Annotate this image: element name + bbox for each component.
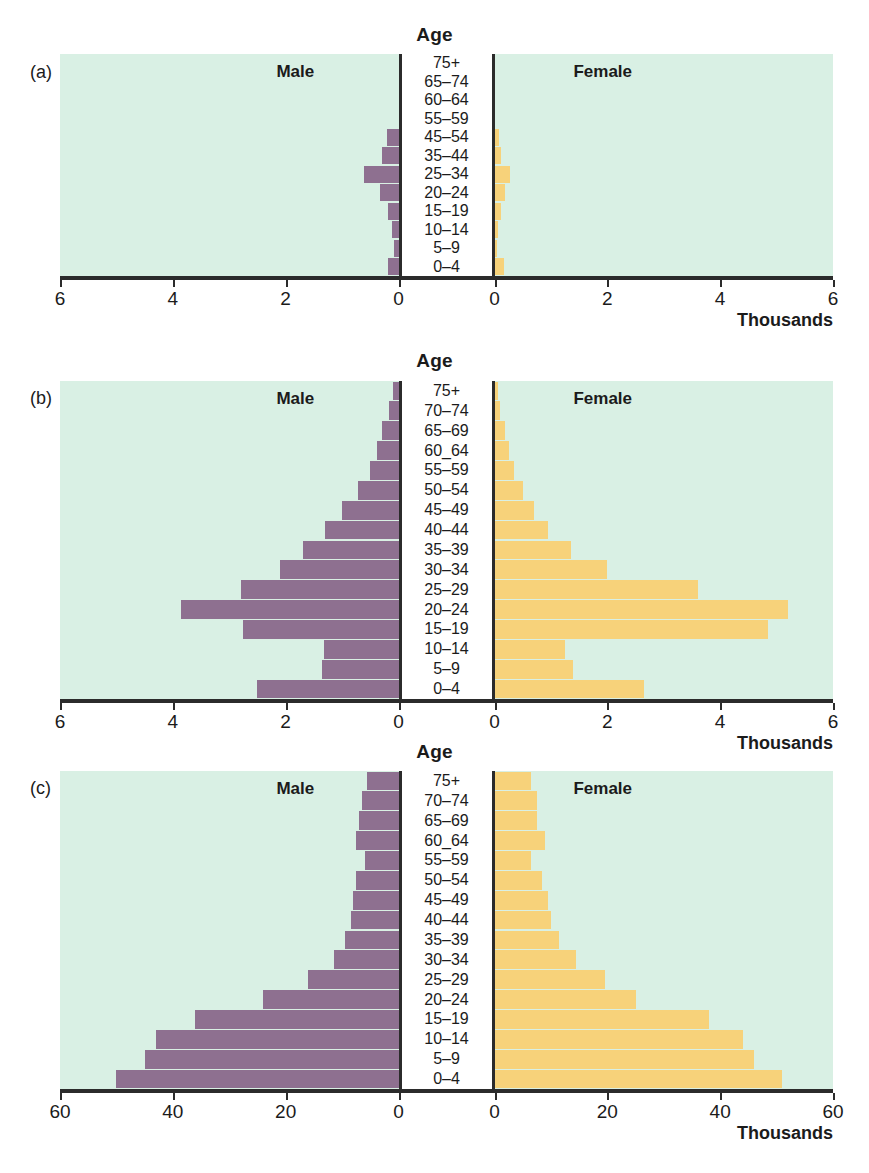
table-row <box>495 970 834 990</box>
age-group-label: 60–64 <box>399 91 495 110</box>
tick-mark <box>60 703 62 710</box>
bar-female-0–4 <box>495 680 645 699</box>
bar-female-45–54 <box>495 129 500 146</box>
tick-label: 0 <box>393 711 404 733</box>
table-row <box>495 679 834 699</box>
age-group-label: 60_64 <box>399 831 495 851</box>
table-row <box>60 54 399 73</box>
bar-female-0–4 <box>495 258 504 275</box>
table-row <box>60 91 399 110</box>
table-row <box>495 1049 834 1069</box>
bar-female-25–29 <box>495 970 605 989</box>
bar-male-70–74 <box>389 401 398 420</box>
age-axis-caption: Age <box>0 24 869 46</box>
age-group-label: 0–4 <box>399 679 495 699</box>
table-row <box>495 500 834 520</box>
bar-female-20–24 <box>495 184 505 201</box>
table-row <box>495 54 834 73</box>
plot-area-a: 75+65–7460–6455–5945–5435–4425–3420–2415… <box>60 54 833 276</box>
tick-label: 4 <box>168 288 179 310</box>
tick-mark <box>833 1093 835 1100</box>
table-row <box>60 73 399 92</box>
tick-mark <box>173 703 175 710</box>
bar-male-40–44 <box>325 521 398 540</box>
female-bars-group <box>495 54 834 276</box>
table-row <box>495 811 834 831</box>
table-row <box>495 1010 834 1030</box>
age-group-label: 55–59 <box>399 110 495 129</box>
bar-male-45–49 <box>342 501 398 520</box>
bar-male-25–29 <box>308 970 398 989</box>
table-row <box>60 831 399 851</box>
bar-female-75+ <box>495 772 532 791</box>
table-row <box>495 421 834 441</box>
table-row <box>60 165 399 184</box>
table-row <box>495 128 834 147</box>
table-row <box>495 560 834 580</box>
bar-female-30–34 <box>495 560 608 579</box>
table-row <box>495 520 834 540</box>
tick-label: 6 <box>828 711 839 733</box>
table-row <box>60 520 399 540</box>
age-axis-caption: Age <box>0 350 869 372</box>
bar-female-15–19 <box>495 203 501 220</box>
age-group-label: 10–14 <box>399 221 495 240</box>
tick-label: 6 <box>55 288 66 310</box>
bar-male-65–69 <box>359 811 398 830</box>
bar-female-55–59 <box>495 461 515 480</box>
tick-label: 6 <box>55 711 66 733</box>
bar-female-20–24 <box>495 600 788 619</box>
table-row <box>60 184 399 203</box>
table-row <box>60 771 399 791</box>
bar-male-70–74 <box>362 791 399 810</box>
table-row <box>60 110 399 129</box>
bar-male-20–24 <box>263 990 398 1009</box>
table-row <box>60 851 399 871</box>
tick-label: 2 <box>280 711 291 733</box>
table-row <box>495 91 834 110</box>
age-group-label: 45–49 <box>399 500 495 520</box>
tick-mark <box>60 1093 62 1100</box>
bar-female-65–69 <box>495 421 505 440</box>
bar-male-45–54 <box>387 129 398 146</box>
table-row <box>495 110 834 129</box>
tick-label: 4 <box>715 711 726 733</box>
table-row <box>495 239 834 258</box>
bar-female-15–19 <box>495 1010 709 1029</box>
age-group-label: 35–44 <box>399 147 495 166</box>
bar-male-75+ <box>367 772 398 791</box>
age-group-label: 10–14 <box>399 639 495 659</box>
table-row <box>495 1029 834 1049</box>
table-row <box>495 620 834 640</box>
panel-letter-b: (b) <box>30 388 52 409</box>
table-row <box>495 73 834 92</box>
table-row <box>495 600 834 620</box>
table-row <box>60 202 399 221</box>
male-series-label: Male <box>276 779 314 799</box>
bar-male-0–4 <box>257 680 398 699</box>
table-row <box>60 870 399 890</box>
bar-female-50–54 <box>495 481 523 500</box>
tick-mark <box>173 1093 175 1100</box>
bar-male-30–34 <box>280 560 398 579</box>
bar-male-65–69 <box>382 421 399 440</box>
table-row <box>60 147 399 166</box>
panel-letter-a: (a) <box>30 62 52 83</box>
bar-male-25–34 <box>364 166 399 183</box>
age-group-label: 15–19 <box>399 620 495 640</box>
table-row <box>495 221 834 240</box>
bar-male-60_64 <box>356 831 398 850</box>
bar-female-65–69 <box>495 811 537 830</box>
bar-male-20–24 <box>380 184 398 201</box>
female-series-label: Female <box>573 389 632 409</box>
tick-label: 60 <box>49 1101 70 1123</box>
bar-female-60_64 <box>495 831 546 850</box>
table-row <box>495 639 834 659</box>
table-row <box>495 381 834 401</box>
table-row <box>60 1069 399 1089</box>
bar-male-15–19 <box>195 1010 398 1029</box>
bar-female-0–4 <box>495 1070 783 1089</box>
table-row <box>495 480 834 500</box>
bar-male-0–4 <box>116 1070 398 1089</box>
tick-mark <box>833 280 835 287</box>
